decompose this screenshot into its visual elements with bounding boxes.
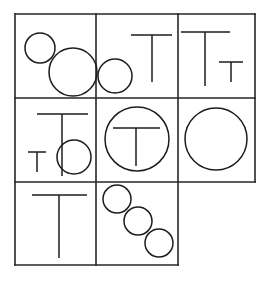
visual-search-figure — [0, 0, 268, 282]
figure-background — [0, 0, 268, 282]
